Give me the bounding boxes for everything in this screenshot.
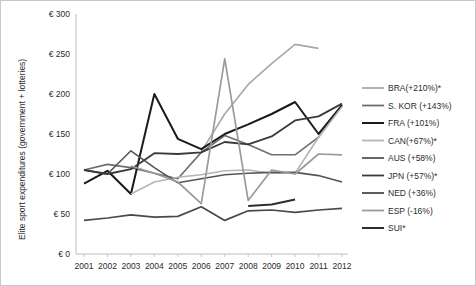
y-tick-label: € 50 xyxy=(53,209,70,219)
legend-label: BRA(+210%)* xyxy=(388,83,442,93)
chart-container: Elite sport expenditures (government + l… xyxy=(0,0,476,286)
legend-label: AUS (+58%) xyxy=(388,153,436,163)
x-tick-label: 2001 xyxy=(75,261,94,271)
series-lines-group xyxy=(84,44,342,220)
x-tick-label: 2010 xyxy=(286,261,305,271)
x-tick-label: 2002 xyxy=(98,261,117,271)
y-axis-title: Elite sport expenditures (government + l… xyxy=(17,59,27,240)
y-tick-label: € 250 xyxy=(49,49,71,59)
legend-item-ned[interactable]: NED (+36%) xyxy=(362,188,436,198)
legend-label: CAN(+67%)* xyxy=(388,136,438,146)
legend-label: ESP (-16%) xyxy=(388,206,433,216)
legend-item-can[interactable]: CAN(+67%)* xyxy=(362,136,438,146)
x-tick-label: 2012 xyxy=(333,261,352,271)
x-axis-tick-labels: 2001200220032004200520062007200820092010… xyxy=(75,261,352,271)
legend-item-fra[interactable]: FRA (+101%) xyxy=(362,118,439,128)
y-tick-label: € 300 xyxy=(49,9,71,19)
series-line-can xyxy=(131,107,342,194)
x-tick-label: 2011 xyxy=(309,261,328,271)
series-line-ned xyxy=(84,207,342,221)
x-tick-label: 2004 xyxy=(145,261,164,271)
y-tick-label: € 200 xyxy=(49,89,71,99)
y-tick-label: € 150 xyxy=(49,129,71,139)
x-tick-label: 2006 xyxy=(192,261,211,271)
legend-label: S. KOR (+143%) xyxy=(388,101,452,111)
legend-item-skor[interactable]: S. KOR (+143%) xyxy=(362,101,452,111)
legend-label: FRA (+101%) xyxy=(388,118,439,128)
y-axis-tick-labels: € 0€ 50€ 100€ 150€ 200€ 250€ 300 xyxy=(49,9,71,259)
x-tick-label: 2007 xyxy=(215,261,234,271)
legend-label: JPN (+57%)* xyxy=(388,171,438,181)
legend-item-bra[interactable]: BRA(+210%)* xyxy=(362,83,442,93)
x-tick-label: 2005 xyxy=(168,261,187,271)
line-chart-svg: Elite sport expenditures (government + l… xyxy=(0,0,476,286)
y-tick-label: € 100 xyxy=(49,169,71,179)
legend-label: NED (+36%) xyxy=(388,188,436,198)
y-tick-label: € 0 xyxy=(58,249,70,259)
legend-label: SUI* xyxy=(388,223,406,233)
series-line-esp xyxy=(131,59,342,204)
legend-item-jpn[interactable]: JPN (+57%)* xyxy=(362,171,438,181)
x-tick-label: 2009 xyxy=(262,261,281,271)
series-line-sui xyxy=(248,200,295,206)
legend-item-aus[interactable]: AUS (+58%) xyxy=(362,153,436,163)
legend-item-esp[interactable]: ESP (-16%) xyxy=(362,206,433,216)
x-tick-label: 2003 xyxy=(121,261,140,271)
legend-item-sui[interactable]: SUI* xyxy=(362,223,406,233)
chart-legend: BRA(+210%)*S. KOR (+143%)FRA (+101%)CAN(… xyxy=(362,83,452,233)
x-tick-label: 2008 xyxy=(239,261,258,271)
